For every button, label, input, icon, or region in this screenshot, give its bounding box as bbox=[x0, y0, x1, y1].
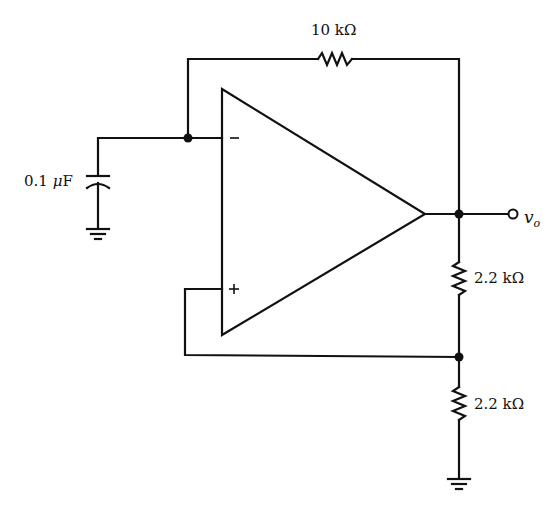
noninverting-input-plus-icon bbox=[229, 284, 239, 294]
feedback-path bbox=[188, 53, 459, 214]
output-voltage-symbol: v bbox=[524, 207, 534, 227]
feedback-resistor-label: 10 kΩ bbox=[311, 23, 356, 38]
circuit-diagram: 10 kΩ 0.1 μF 2.2 kΩ 2.2 kΩ vo bbox=[0, 0, 559, 520]
capacitor-unit: F bbox=[62, 172, 72, 190]
divider-resistor-bottom-label: 2.2 kΩ bbox=[474, 397, 524, 412]
divider-bottom-path bbox=[453, 357, 465, 478]
inverting-input-path bbox=[98, 134, 222, 177]
ground-bottom-icon bbox=[448, 479, 470, 489]
capacitor-icon bbox=[87, 176, 109, 228]
divider-resistor-top-label: 2.2 kΩ bbox=[474, 271, 524, 286]
schematic-drawing bbox=[0, 0, 559, 520]
junction-dot-icon bbox=[184, 134, 193, 143]
divider-resistor-bottom-icon bbox=[453, 387, 465, 420]
output-voltage-subscript: o bbox=[534, 217, 541, 230]
capacitor-value: 0.1 bbox=[24, 172, 53, 190]
divider-top-path bbox=[453, 214, 465, 357]
capacitor-unit-prefix: μ bbox=[53, 172, 63, 190]
feedback-resistor-icon bbox=[318, 53, 352, 65]
output-path bbox=[425, 210, 518, 219]
capacitor-label: 0.1 μF bbox=[24, 174, 73, 189]
opamp-triangle-icon bbox=[222, 89, 425, 335]
ground-icon bbox=[87, 229, 109, 239]
output-terminal-icon[interactable] bbox=[509, 210, 518, 219]
output-voltage-label: vo bbox=[524, 209, 540, 229]
noninverting-input-path bbox=[185, 289, 464, 362]
divider-resistor-top-icon bbox=[453, 262, 465, 295]
